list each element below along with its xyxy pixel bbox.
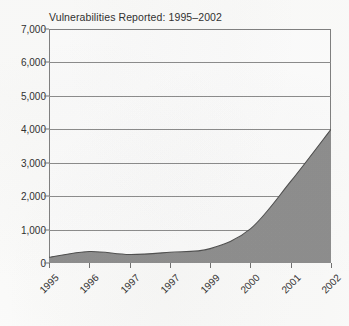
area-series-vulnerabilities (49, 29, 331, 263)
x-tick-mark (210, 263, 211, 268)
y-tick-label: 7,000 (2, 24, 46, 35)
y-tick-label: 6,000 (2, 57, 46, 68)
x-tick-label: 2000 (226, 272, 262, 308)
x-tick-label: 2001 (266, 272, 302, 308)
x-tick-mark (250, 263, 251, 268)
y-tick-mark (44, 196, 49, 197)
x-tick-label: 1996 (65, 272, 101, 308)
chart-figure: Vulnerabilities Reported: 1995–2002 01,0… (0, 0, 349, 326)
x-tick-mark (89, 263, 90, 268)
y-tick-label: 4,000 (2, 124, 46, 135)
x-tick-mark (291, 263, 292, 268)
y-tick-mark (44, 162, 49, 163)
y-tick-mark (44, 129, 49, 130)
y-tick-label: 1,000 (2, 224, 46, 235)
x-tick-label: 1999 (186, 272, 222, 308)
y-tick-mark (44, 229, 49, 230)
y-tick-label: 5,000 (2, 90, 46, 101)
y-tick-mark (44, 29, 49, 30)
y-tick-mark (44, 62, 49, 63)
y-tick-label: 2,000 (2, 191, 46, 202)
plot-area (49, 29, 331, 263)
x-tick-mark (49, 263, 50, 268)
x-tick-label: 1997 (146, 272, 182, 308)
y-tick-label: 0 (2, 258, 46, 269)
x-tick-mark (130, 263, 131, 268)
chart-title: Vulnerabilities Reported: 1995–2002 (49, 11, 222, 23)
y-tick-label: 3,000 (2, 157, 46, 168)
area-fill (49, 129, 331, 263)
x-tick-mark (170, 263, 171, 268)
x-tick-label: 1997 (105, 272, 141, 308)
y-tick-mark (44, 95, 49, 96)
x-tick-label: 2002 (307, 272, 343, 308)
x-tick-mark (331, 263, 332, 268)
x-tick-label: 1995 (25, 272, 61, 308)
